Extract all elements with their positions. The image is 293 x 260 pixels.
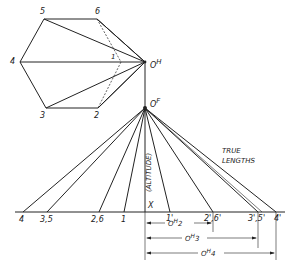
dimension-label-oh2: OH2: [168, 219, 182, 228]
vertex-label-6: 6: [95, 8, 100, 16]
x-label: X: [148, 202, 153, 210]
base-point-3-5: 3,5: [40, 216, 53, 224]
base-point-1: 1: [121, 216, 126, 224]
dimension-label-oh4: OH4: [201, 249, 215, 258]
apex-top-label: OH: [150, 59, 162, 70]
vertex-label-4: 4: [10, 58, 15, 66]
true-lengths-label-1: TRUE: [222, 148, 241, 155]
vertex-label-1: 1: [111, 54, 115, 61]
vertex-label-5: 5: [40, 8, 45, 16]
dimension-label-oh3: OH3: [185, 234, 199, 243]
true-point-3-5: 3',5': [248, 215, 265, 223]
altitude-label: (ALTITUDE): [146, 153, 153, 192]
base-point-4: 4: [19, 216, 24, 224]
drawing-canvas: 5 6 4 3 2 1 OH OF (ALTITUDE) X 4 3,5 2,6…: [0, 0, 293, 260]
true-point-4: 4': [274, 215, 281, 223]
true-lengths-label-2: LENGTHS: [222, 158, 255, 165]
vertex-label-3: 3: [40, 112, 45, 120]
vertex-label-2: 2: [94, 112, 99, 120]
true-point-2-6: 2',6': [204, 215, 221, 223]
apex-front-label: OF: [150, 98, 160, 109]
hexagon-base-outline: [20, 19, 145, 108]
base-point-2-6: 2,6: [91, 216, 104, 224]
